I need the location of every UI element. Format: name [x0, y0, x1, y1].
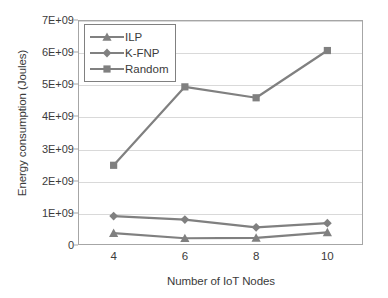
legend-glyph	[100, 62, 114, 76]
legend-item-k-fnp: K-FNP	[90, 45, 168, 61]
legend-glyph	[100, 30, 114, 44]
x-tick-label: 10	[307, 250, 347, 262]
data-point-marker	[103, 65, 110, 72]
data-point-marker	[102, 32, 111, 40]
legend-marker-diamond-icon	[90, 46, 124, 60]
legend-label: Random	[124, 63, 168, 75]
gridline	[79, 85, 362, 86]
gridline	[79, 214, 362, 215]
legend-glyph	[100, 46, 114, 60]
x-tick-label: 4	[94, 250, 134, 262]
chart-figure: Energy consumption (Joules) 01E+092E+093…	[0, 0, 388, 298]
y-tick-label: 1E+09	[12, 207, 74, 219]
gridline	[79, 117, 362, 118]
y-tick-label: 3E+09	[12, 143, 74, 155]
gridline	[79, 182, 362, 183]
legend-label: ILP	[124, 31, 142, 43]
data-point-marker	[103, 49, 112, 58]
x-tick-label: 6	[165, 250, 205, 262]
legend-item-random: Random	[90, 61, 168, 77]
legend-label: K-FNP	[124, 47, 160, 59]
y-tick-label: 2E+09	[12, 175, 74, 187]
legend-item-ilp: ILP	[90, 29, 168, 45]
y-tick-label: 7E+09	[12, 14, 74, 26]
gridline	[79, 150, 362, 151]
x-tick-label: 8	[236, 250, 276, 262]
y-tick-label: 6E+09	[12, 46, 74, 58]
y-tick-label: 5E+09	[12, 78, 74, 90]
legend-marker-triangle-icon	[90, 30, 124, 44]
y-tick-label: 0	[12, 239, 74, 251]
legend-marker-square-icon	[90, 62, 124, 76]
chart-legend: ILPK-FNPRandom	[84, 24, 176, 82]
x-axis-title: Number of IoT Nodes	[78, 275, 364, 287]
gridline	[79, 21, 362, 22]
y-tick-label: 4E+09	[12, 110, 74, 122]
